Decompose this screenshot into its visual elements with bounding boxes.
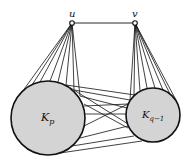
graph-diagram: u v Kp Kq−1 bbox=[0, 0, 190, 164]
vertex-v-label: v bbox=[132, 8, 138, 19]
vertex-v bbox=[133, 21, 138, 26]
vertex-u bbox=[70, 21, 75, 26]
vertex-u-label: u bbox=[69, 8, 75, 19]
